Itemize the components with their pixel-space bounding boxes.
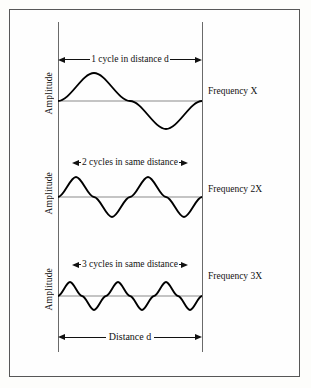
span-rule-right — [170, 59, 195, 60]
waveform-svg-3 — [58, 274, 202, 318]
arrow-left-icon — [58, 334, 65, 340]
amplitude-axis-label-2: Amplitude — [44, 172, 54, 214]
span-annotation-1: 1 cycle in distance d — [58, 52, 202, 67]
amplitude-axis-label-3: Amplitude — [44, 268, 54, 310]
frequency-label-3: Frequency 3X — [208, 271, 262, 281]
distance-rule-right — [154, 337, 195, 338]
waveform-plot-2 — [58, 172, 202, 222]
span-caption-3: 3 cycles in same distance — [81, 260, 179, 270]
arrow-right-icon — [181, 262, 188, 268]
distance-rule-left — [65, 337, 106, 338]
arrow-left-icon — [58, 57, 65, 63]
distance-caption: Distance d — [106, 332, 155, 342]
frequency-label-2: Frequency 2X — [208, 184, 262, 194]
arrow-right-icon — [195, 57, 202, 63]
waveform-plot-3 — [58, 274, 202, 318]
wave-frequency-figure: 1 cycle in distance d Amplitude Frequenc… — [0, 0, 311, 388]
waveform-svg-2 — [58, 172, 202, 222]
waveform-plot-1 — [58, 70, 202, 132]
arrow-left-icon — [72, 262, 79, 268]
distance-annotation: Distance d — [58, 330, 202, 344]
arrow-left-icon — [72, 160, 79, 166]
frequency-label-1: Frequency X — [208, 86, 257, 96]
span-caption-2: 2 cycles in same distance — [81, 158, 179, 168]
amplitude-axis-label-1: Amplitude — [44, 72, 54, 114]
waveform-svg-1 — [58, 70, 202, 132]
span-caption-1: 1 cycle in distance d — [90, 55, 170, 65]
arrow-right-icon — [181, 160, 188, 166]
span-annotation-2: 2 cycles in same distance — [58, 155, 202, 170]
arrow-right-icon — [195, 334, 202, 340]
span-rule-left — [65, 59, 90, 60]
span-annotation-3: 3 cycles in same distance — [58, 257, 202, 272]
distance-rail-right — [202, 22, 203, 352]
